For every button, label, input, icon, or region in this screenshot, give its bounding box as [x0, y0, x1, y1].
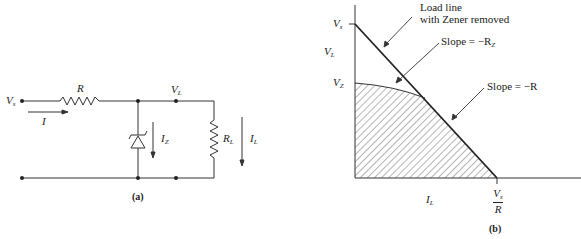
arrow-head-icon [240, 160, 244, 166]
y-axis-label-vl: VL [324, 46, 335, 59]
label-il: IL [250, 133, 258, 146]
label-vl: VL [171, 84, 182, 97]
node-ground [20, 176, 24, 180]
node-vl [174, 99, 178, 103]
annotation-slope-rz: Slope = −RZ [441, 36, 495, 49]
annotation-arrow-slope-r-icon [455, 88, 484, 117]
shaded-region [355, 83, 497, 178]
y-tick-label-vz: VZ [333, 77, 344, 90]
arrow-head-icon [151, 152, 155, 158]
node-vs [20, 99, 24, 103]
caption-a: (a) [132, 192, 144, 202]
caption-b: (b) [489, 224, 501, 234]
resistor-r [60, 97, 99, 105]
label-i: I [42, 116, 46, 127]
zener-diode-icon [131, 136, 145, 148]
label-vs: Vs [6, 95, 15, 108]
x-axis-label-il: IL [426, 194, 434, 207]
annotation-arrow-load-line-icon [386, 17, 412, 44]
label-rl: RL [223, 133, 234, 146]
node-junction-top [136, 99, 140, 103]
annotation-load-line-1: Load line [420, 2, 462, 13]
arrow-head-icon [452, 114, 457, 120]
node-junction-bottom [136, 176, 140, 180]
circuit-schematic [22, 97, 218, 178]
label-r: R [77, 83, 84, 94]
annotation-slope-r: Slope = −R [487, 81, 537, 92]
resistor-rl [210, 120, 218, 158]
annotation-arrow-slope-rz-icon [399, 43, 439, 80]
annotation-load-line-2: with Zener removed [420, 14, 509, 25]
circuit-nodes [20, 99, 178, 180]
label-iz: IZ [161, 133, 169, 146]
x-tick-label-vs-over-r: Vs R [490, 188, 506, 215]
chart-area [349, 5, 581, 184]
y-tick-label-vs: Vs [333, 18, 342, 31]
arrow-head-icon [62, 110, 68, 114]
node-vl-bottom [174, 176, 178, 180]
